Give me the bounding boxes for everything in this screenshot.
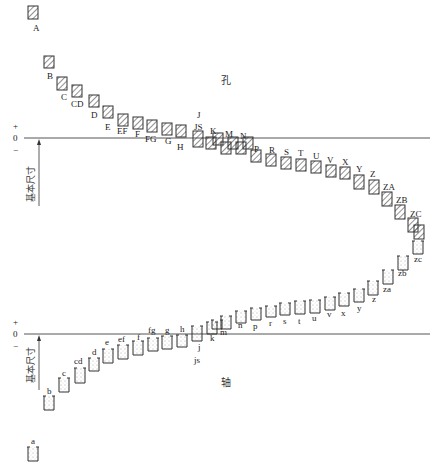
- hole-zone-box: [103, 106, 113, 118]
- shaft-zone: zc: [412, 241, 424, 264]
- shaft-zone: za: [382, 270, 394, 294]
- shaft-zone-label: t: [298, 316, 301, 326]
- hole-zone-label: D: [91, 110, 98, 120]
- hole-zone-box: [369, 180, 379, 194]
- shaft-zone-label: fg: [148, 325, 156, 335]
- hole-zone-label: JS: [194, 122, 203, 132]
- shaft-zone-label: js: [193, 355, 201, 365]
- shaft-zone-box: [59, 378, 69, 392]
- shaft-zone-box: [75, 368, 85, 383]
- fundamental-deviation-diagram: + 0 − 基本尺寸 + 0 − 基本尺寸 孔 轴 ABCCDDEEFFFGGH…: [0, 0, 437, 474]
- hole-zone: S: [281, 147, 291, 169]
- shaft-zone-label: d: [92, 347, 97, 357]
- hole-zone-box: [340, 167, 350, 179]
- hole-title: 孔: [221, 75, 231, 86]
- hole-zone-label: B: [47, 71, 53, 81]
- shaft-zone: t: [294, 301, 306, 326]
- shaft-zone-box: [133, 341, 143, 355]
- shaft-zone-label: e: [105, 337, 109, 347]
- shaft-zone: ef: [117, 334, 129, 359]
- shaft-zone-box: [310, 300, 320, 313]
- hole-zone-label: P: [254, 144, 259, 154]
- arrow-head-icon: [37, 335, 41, 341]
- shaft-zone-label: r: [269, 318, 272, 328]
- shaft-zone-label: za: [383, 284, 391, 294]
- hole-zone-box: [176, 125, 186, 137]
- shaft-zone-label: k: [210, 333, 215, 343]
- shaft-plus-sign: +: [13, 317, 18, 327]
- shaft-zone-label: h: [180, 324, 185, 334]
- shaft-zone-box: [162, 336, 172, 349]
- shaft-zone: r: [265, 306, 277, 328]
- hole-zone: FG: [145, 120, 157, 144]
- shaft-zone: p: [250, 308, 262, 331]
- shaft-zone-box: [280, 303, 290, 315]
- hole-zone-box: [311, 161, 321, 173]
- hole-zone: C: [57, 77, 67, 102]
- hole-zone-label: U: [313, 151, 320, 161]
- shaft-zone-box: [148, 338, 158, 351]
- hole-zone-box: [162, 123, 172, 135]
- hole-zone: ZB: [395, 195, 408, 219]
- hole-zone: B: [44, 56, 54, 81]
- hole-zone-label: CD: [71, 99, 84, 109]
- hole-zone: Y: [354, 164, 364, 189]
- shaft-zone-box: [295, 301, 305, 314]
- shaft-zone-label: b: [47, 386, 52, 396]
- hole-zone: [243, 137, 253, 149]
- shaft-zone-label: n: [238, 320, 243, 330]
- shaft-zone-box: [251, 308, 261, 320]
- shaft-zone: k: [206, 322, 218, 343]
- shaft-zone: b: [43, 386, 55, 410]
- hole-zone-label: A: [33, 23, 40, 33]
- shaft-zone-label: g: [165, 325, 170, 335]
- shaft-zone: x: [338, 293, 350, 318]
- shaft-zone-box: [354, 289, 364, 302]
- hole-minus-sign: −: [13, 145, 18, 155]
- hole-zone-label: X: [342, 157, 349, 167]
- shaft-zone: u: [309, 300, 321, 323]
- hole-zone: ZA: [382, 182, 395, 206]
- hole-zone-box: [395, 205, 405, 219]
- hole-zone-label: Z: [370, 169, 376, 179]
- shaft-zone-label: x: [341, 308, 346, 318]
- shaft-zone: a: [27, 436, 39, 461]
- arrow-head-icon: [37, 139, 41, 145]
- hole-zone: T: [296, 148, 306, 171]
- shaft-zone-box: [177, 335, 187, 347]
- hole-zone: E: [103, 106, 113, 132]
- hole-zones: ABCCDDEEFFFGGHJSJKMNPRSTUVXYZZAZBZC: [28, 6, 424, 239]
- hole-zone: G: [162, 123, 172, 146]
- hole-zone-box: [28, 6, 38, 19]
- hole-zone-box: [57, 77, 67, 90]
- hole-zone-label: V: [327, 155, 334, 165]
- shaft-zone-label: p: [253, 321, 258, 331]
- shaft-zone-box: [413, 241, 423, 254]
- hole-zone: EF: [117, 114, 128, 136]
- hole-zone-label: Y: [356, 164, 363, 174]
- shaft-zone-label: y: [357, 303, 362, 313]
- hole-zone-label: E: [105, 122, 111, 132]
- shaft-zone: c: [58, 368, 70, 392]
- shaft-zone-label: c: [62, 368, 66, 378]
- shaft-zone: g: [161, 325, 173, 349]
- shaft-zone: z: [367, 281, 379, 304]
- hole-zone-label: H: [177, 142, 184, 152]
- shaft-zone-box: [103, 349, 113, 363]
- hole-zone: F: [133, 117, 143, 139]
- hole-zone-label: G: [165, 136, 172, 146]
- shaft-zone: v: [324, 297, 336, 319]
- shaft-zone-label: zc: [414, 254, 422, 264]
- shaft-zone: s: [279, 303, 291, 326]
- shaft-title: 轴: [221, 376, 231, 388]
- hole-zone: V: [326, 155, 336, 177]
- hole-zone: JSJ: [193, 110, 203, 147]
- shaft-zone-sublabel: j: [197, 342, 201, 352]
- hole-zone-label: R: [269, 145, 275, 155]
- shaft-zone-label: a: [31, 436, 35, 446]
- hole-zone-box: [281, 157, 291, 169]
- shaft-zone: f: [132, 332, 144, 355]
- hole-zone: U: [311, 151, 321, 173]
- hole-zone-box: [133, 117, 143, 129]
- hole-zone: Z: [369, 169, 379, 194]
